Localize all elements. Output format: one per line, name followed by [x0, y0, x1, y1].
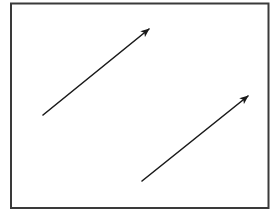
arrow-2-arrow-icon [142, 96, 248, 181]
frame-border [11, 4, 269, 209]
arrow-1-arrow-icon [43, 29, 149, 115]
arrows-group [43, 29, 248, 181]
diagram-canvas [0, 0, 274, 215]
